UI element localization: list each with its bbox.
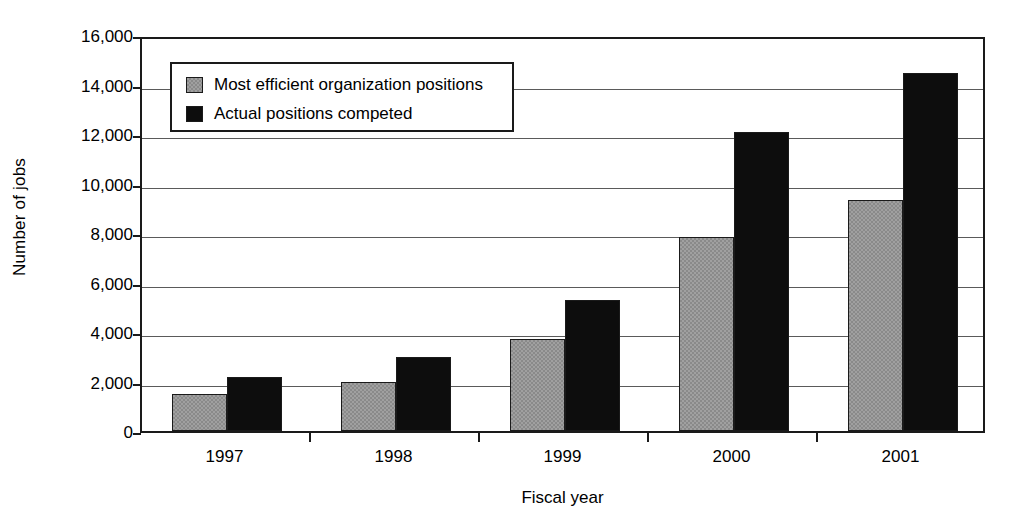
bar (848, 200, 903, 431)
x-axis-tick-mark (647, 433, 649, 442)
legend-item: Actual positions competed (186, 100, 512, 127)
x-axis-tick-label: 1998 (334, 447, 454, 467)
y-axis-tick-label: 6,000 (41, 275, 133, 295)
bar (565, 300, 620, 431)
x-axis-tick-label: 2001 (841, 447, 961, 467)
y-axis-tick-label: 10,000 (41, 176, 133, 196)
y-axis-tick-label: 14,000 (41, 77, 133, 97)
gridline (142, 138, 983, 139)
x-axis-title: Fiscal year (140, 488, 985, 508)
legend-label: Most efficient organization positions (214, 75, 483, 95)
legend-swatch-icon (186, 106, 203, 122)
y-axis-title-text: Number of jobs (10, 157, 30, 275)
legend-item: Most efficient organization positions (186, 71, 512, 98)
x-axis-tick-mark (478, 433, 480, 442)
legend-label: Actual positions competed (214, 104, 412, 124)
y-axis-title: Number of jobs (0, 0, 40, 433)
bar (510, 339, 565, 431)
x-axis-tick-mark (816, 433, 818, 442)
x-axis-tick-label: 1997 (165, 447, 285, 467)
bar (172, 394, 227, 431)
y-axis-tick-label: 16,000 (41, 27, 133, 47)
x-axis-tick-label: 2000 (672, 447, 792, 467)
bar (679, 237, 734, 431)
bar-chart-figure: Number of jobs 02,0004,0006,0008,00010,0… (0, 0, 1017, 525)
y-axis-tick-label: 8,000 (41, 225, 133, 245)
legend-swatch-icon (186, 77, 203, 93)
y-axis-tick-label: 0 (41, 423, 133, 443)
gridline (142, 188, 983, 189)
y-axis-tick-label: 12,000 (41, 126, 133, 146)
bar (396, 357, 451, 431)
bar (734, 132, 789, 431)
x-axis-tick-label: 1999 (503, 447, 623, 467)
bar (227, 377, 282, 431)
x-axis-tick-mark (309, 433, 311, 442)
bar (903, 73, 958, 431)
y-axis-tick-label: 4,000 (41, 324, 133, 344)
y-axis-tick-mark (133, 433, 141, 435)
y-axis-tick-label: 2,000 (41, 374, 133, 394)
chart-legend: Most efficient organization positions Ac… (170, 62, 514, 132)
bar (341, 382, 396, 432)
